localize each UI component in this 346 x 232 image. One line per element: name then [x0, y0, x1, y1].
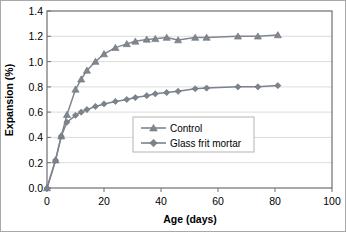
y-tick-label: 0.2 [28, 157, 43, 169]
x-tick-label: 80 [269, 195, 281, 207]
y-tick-label: 1.2 [28, 30, 43, 42]
legend-label-glass-frit-mortar: Glass frit mortar [170, 138, 242, 149]
x-axis-title: Age (days) [163, 213, 217, 225]
x-tick-label: 20 [98, 195, 110, 207]
y-tick-label: 1.4 [28, 5, 43, 17]
y-tick-label: 0.0 [28, 182, 43, 194]
legend-label-control: Control [170, 123, 202, 134]
expansion-vs-age-line-chart: 1.4 1.2 1.0 0.8 0.6 0.4 0.2 0.0 0 20 40 … [0, 0, 346, 232]
y-axis-title: Expansion (%) [3, 64, 15, 136]
x-tick-label: 100 [323, 195, 341, 207]
plot-area-background [47, 11, 332, 188]
y-tick-label: 0.4 [28, 131, 43, 143]
chart-figure: 1.4 1.2 1.0 0.8 0.6 0.4 0.2 0.0 0 20 40 … [0, 0, 346, 232]
y-tick-label: 1.0 [28, 56, 43, 68]
legend: Control Glass frit mortar [133, 117, 254, 152]
y-tick-label: 0.8 [28, 81, 43, 93]
x-tick-label: 0 [44, 195, 50, 207]
y-tick-label: 0.6 [28, 106, 43, 118]
x-tick-label: 40 [155, 195, 167, 207]
x-tick-label: 60 [212, 195, 224, 207]
